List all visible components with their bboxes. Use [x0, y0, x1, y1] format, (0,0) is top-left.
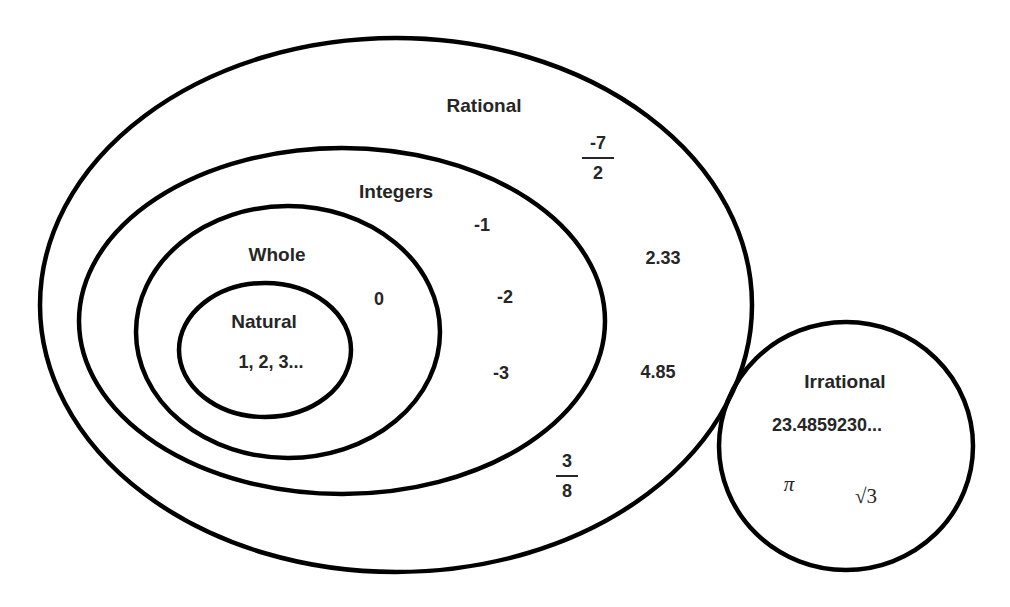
fraction-numerator: -7: [590, 134, 606, 152]
integers-set-label: Integers: [359, 182, 433, 201]
sqrt-three-symbol: √3: [855, 486, 877, 507]
fraction-bar: [582, 157, 614, 159]
fraction-bar: [556, 475, 578, 477]
natural-set-ellipse: [179, 283, 351, 417]
rational-member-4-85: 4.85: [640, 363, 675, 381]
fraction-numerator: 3: [562, 452, 572, 470]
rational-fraction-three-eighths: 3 8: [556, 452, 578, 500]
irrational-set-label: Irrational: [804, 372, 885, 391]
number-sets-diagram: Rational -7 2 2.33 4.85 3 8 Integers -1 …: [0, 0, 1010, 607]
rational-member-2-33: 2.33: [645, 249, 680, 267]
rational-fraction-neg-seven-halves: -7 2: [582, 134, 614, 182]
fraction-denominator: 8: [562, 482, 572, 500]
irrational-member-decimal: 23.4859230...: [772, 416, 882, 434]
whole-member-0: 0: [374, 290, 384, 308]
pi-symbol: π: [784, 474, 795, 495]
natural-set-label: Natural: [231, 312, 296, 331]
whole-set-label: Whole: [249, 245, 306, 264]
natural-members: 1, 2, 3...: [238, 353, 303, 371]
integer-member-neg-1: -1: [474, 216, 490, 234]
rational-set-label: Rational: [447, 96, 522, 115]
integer-member-neg-3: -3: [493, 364, 509, 382]
integer-member-neg-2: -2: [497, 288, 513, 306]
fraction-denominator: 2: [593, 164, 603, 182]
irrational-set-circle: [719, 322, 973, 570]
